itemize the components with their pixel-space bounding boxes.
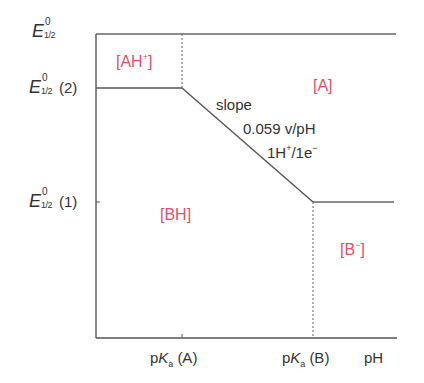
x-label-pka-b: pKa(B) [282,350,329,369]
region-label-ah-plus: [AH+] [116,53,152,70]
y-label-e-half: E01/2 [32,22,58,40]
region-label-a: [A] [313,78,333,94]
slope-label: slope [216,97,252,112]
x-label-ph: pH [364,350,383,365]
region-label-bh: [BH] [160,207,191,223]
region-label-b-minus: [B−] [340,241,365,258]
slope-ratio-label: 1H+/1e− [267,144,318,160]
x-label-pka-a: pKa(A) [150,350,197,369]
y-label-e-half-2: E01/2(2) [29,78,77,96]
y-label-e-half-1: E01/2(1) [29,192,77,210]
slope-value-label: 0.059 v/pH [243,121,316,136]
